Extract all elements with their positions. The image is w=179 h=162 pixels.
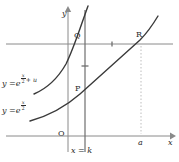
point-label-q: Q bbox=[74, 32, 81, 40]
equation-label-upper: y =ex2+ u bbox=[2, 73, 37, 88]
point-label-r: R bbox=[136, 31, 142, 39]
curve-upper-exponential bbox=[34, 6, 88, 94]
point-label-p: P bbox=[75, 85, 80, 93]
vertical-line-label: x = k bbox=[71, 147, 92, 155]
math-figure: y x O Q R P x = k a y =ex2+ u y =ex2 bbox=[0, 0, 179, 162]
x-mark-a-label: a bbox=[138, 139, 143, 147]
equation-upper-lhs: y = bbox=[2, 79, 16, 88]
origin-label: O bbox=[58, 130, 65, 138]
equation-lower-lhs: y = bbox=[2, 106, 16, 115]
y-axis-label: y bbox=[62, 10, 67, 18]
equation-lower-exp-den: 2 bbox=[21, 106, 26, 111]
equation-upper-exponent: x2+ u bbox=[21, 76, 37, 83]
equation-lower-exponent: x2 bbox=[21, 103, 26, 110]
equation-upper-exp-plus: + u bbox=[26, 76, 37, 83]
equation-label-lower: y =ex2 bbox=[2, 100, 26, 115]
x-axis-label: x bbox=[168, 139, 173, 147]
